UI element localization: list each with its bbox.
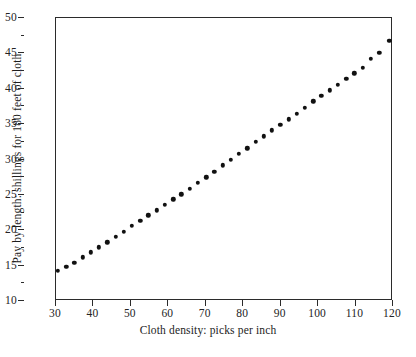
x-axis-title: Cloth density: picks per inch: [0, 324, 416, 336]
data-point: [360, 65, 364, 69]
data-point: [64, 265, 68, 269]
y-tick-label: 30: [0, 153, 17, 165]
data-point: [97, 245, 101, 249]
y-minor-tick-mark: [21, 141, 25, 142]
x-tick-mark: [55, 300, 56, 306]
data-point: [196, 181, 200, 185]
x-tick-label: 110: [346, 307, 363, 319]
y-minor-tick-mark: [21, 105, 25, 106]
data-point: [179, 192, 183, 196]
y-minor-tick-mark: [21, 176, 25, 177]
x-tick-label: 30: [49, 307, 61, 319]
y-tick-mark: [18, 265, 24, 266]
y-tick-mark: [18, 159, 24, 160]
y-tick-label: 15: [0, 259, 17, 271]
y-tick-mark: [18, 52, 24, 53]
data-point: [270, 128, 274, 132]
data-point: [171, 197, 175, 201]
x-tick-mark: [280, 300, 281, 306]
data-point: [377, 50, 381, 54]
y-minor-tick-mark: [21, 212, 25, 213]
data-point: [212, 169, 216, 173]
y-minor-tick-mark: [21, 282, 25, 283]
data-point: [105, 240, 109, 244]
x-tick-label: 50: [124, 307, 136, 319]
data-point: [352, 71, 356, 75]
data-point: [220, 163, 224, 167]
x-tick-mark: [392, 300, 393, 306]
y-tick-label: 25: [0, 188, 17, 200]
x-tick-label: 70: [199, 307, 211, 319]
y-tick-label: 20: [0, 223, 17, 235]
data-point: [187, 186, 191, 190]
scatter-plot-figure: Pay by length: shillings for 180 feet of…: [0, 0, 416, 357]
data-point: [336, 82, 340, 86]
y-tick-label: 10: [0, 294, 17, 306]
y-tick-mark: [18, 17, 24, 18]
data-point: [163, 203, 167, 207]
data-point: [130, 224, 134, 228]
data-point: [369, 57, 373, 61]
data-point: [311, 99, 315, 103]
y-minor-tick-mark: [21, 35, 25, 36]
x-tick-label: 100: [308, 307, 326, 319]
y-tick-mark: [18, 229, 24, 230]
data-point: [72, 261, 76, 265]
data-point: [204, 175, 208, 179]
x-tick-mark: [92, 300, 93, 306]
data-point: [89, 250, 93, 254]
data-points-layer: [56, 18, 391, 299]
y-tick-label: 50: [0, 11, 17, 23]
x-tick-label: 120: [383, 307, 401, 319]
data-point: [387, 38, 391, 42]
y-tick-mark: [18, 300, 24, 301]
y-tick-label: 40: [0, 82, 17, 94]
y-tick-label: 45: [0, 46, 17, 58]
data-point: [253, 140, 257, 144]
x-tick-mark: [317, 300, 318, 306]
data-point: [113, 234, 117, 238]
x-tick-label: 60: [161, 307, 173, 319]
data-point: [138, 219, 142, 223]
data-point: [155, 208, 159, 212]
plot-area: [55, 17, 392, 300]
caption-sliver: [0, 349, 416, 357]
data-point: [319, 94, 323, 98]
x-tick-label: 90: [274, 307, 286, 319]
data-point: [295, 111, 299, 115]
x-tick-label: 40: [86, 307, 98, 319]
y-tick-mark: [18, 123, 24, 124]
x-tick-mark: [130, 300, 131, 306]
data-point: [146, 213, 150, 217]
data-point: [229, 157, 233, 161]
data-point: [262, 134, 266, 138]
x-tick-mark: [167, 300, 168, 306]
y-minor-tick-mark: [21, 247, 25, 248]
x-tick-mark: [205, 300, 206, 306]
x-tick-label: 80: [236, 307, 248, 319]
y-tick-mark: [18, 88, 24, 89]
data-point: [286, 117, 290, 121]
y-tick-mark: [18, 194, 24, 195]
x-tick-mark: [355, 300, 356, 306]
y-minor-tick-mark: [21, 70, 25, 71]
data-point: [80, 255, 84, 259]
data-point: [237, 152, 241, 156]
data-point: [278, 123, 282, 127]
y-tick-label: 35: [0, 117, 17, 129]
x-tick-mark: [242, 300, 243, 306]
data-point: [328, 88, 332, 92]
data-point: [245, 146, 249, 150]
data-point: [303, 106, 307, 110]
data-point: [56, 268, 60, 272]
data-point: [122, 229, 126, 233]
data-point: [344, 77, 348, 81]
